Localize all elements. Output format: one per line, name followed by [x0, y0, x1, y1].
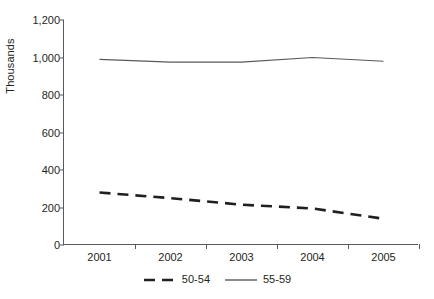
- y-tick-label: 200: [42, 202, 60, 213]
- y-tick-label: 800: [42, 90, 60, 101]
- x-tick-mark: [419, 244, 420, 249]
- series-lines: [64, 20, 419, 245]
- series-line-55-59: [100, 58, 384, 63]
- legend-label: 50-54: [182, 274, 210, 285]
- legend-swatch-50-54: [143, 275, 177, 285]
- legend-entry-50-54[interactable]: 50-54: [143, 274, 210, 285]
- legend-label: 55-59: [263, 274, 291, 285]
- legend-swatch-55-59: [224, 275, 258, 285]
- y-tick-label: 1,000: [32, 52, 60, 63]
- x-tick-label: 2001: [87, 252, 111, 263]
- y-tick-label: 600: [42, 127, 60, 138]
- plot-area: 02004006008001,0001,200 2001200220032004…: [63, 20, 418, 245]
- chart-legend: 50-5455-59: [0, 274, 434, 285]
- x-tick-label: 2005: [371, 252, 395, 263]
- y-tick-label: 400: [42, 165, 60, 176]
- y-axis-title: Thousands: [4, 16, 16, 116]
- x-tick-label: 2002: [158, 252, 182, 263]
- y-tick-label: 1,200: [32, 15, 60, 26]
- x-tick-label: 2004: [300, 252, 324, 263]
- series-line-50-54: [100, 193, 384, 219]
- legend-entry-55-59[interactable]: 55-59: [224, 274, 291, 285]
- x-tick-label: 2003: [229, 252, 253, 263]
- line-chart: Thousands 02004006008001,0001,200 200120…: [0, 0, 434, 299]
